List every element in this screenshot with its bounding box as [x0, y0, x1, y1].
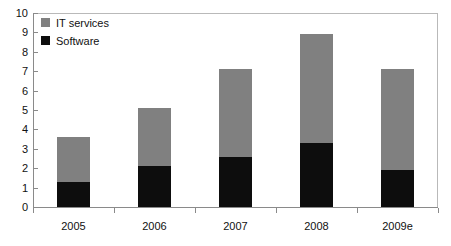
y-axis-tick-label: 0 — [0, 202, 28, 212]
y-axis-tick-mark — [33, 91, 38, 92]
bar-segment-software-2007[interactable] — [219, 157, 252, 207]
bar-segment-software-2008[interactable] — [300, 143, 333, 207]
bar-segment-it-services-2005[interactable] — [57, 137, 90, 182]
x-axis-tick-mark — [276, 208, 277, 213]
y-axis-tick-label: 5 — [0, 105, 28, 115]
y-axis-tick-label: 6 — [0, 86, 28, 96]
y-axis-tick-mark — [33, 52, 38, 53]
y-axis-tick-label: 2 — [0, 163, 28, 173]
legend-label-it-services: IT services — [56, 17, 109, 29]
bar-group-2008[interactable] — [300, 34, 333, 207]
x-axis-tick-label-2005: 2005 — [33, 220, 114, 232]
y-axis-tick-mark — [33, 110, 38, 111]
y-axis-tick-mark — [33, 188, 38, 189]
y-axis-tick-mark — [33, 71, 38, 72]
bar-segment-software-2005[interactable] — [57, 182, 90, 207]
bar-segment-it-services-2007[interactable] — [219, 69, 252, 156]
legend-label-software: Software — [56, 35, 99, 47]
bar-segment-software-2009e[interactable] — [381, 170, 414, 207]
x-axis-line — [33, 207, 438, 208]
legend-item-it-services: IT services — [41, 16, 109, 29]
stacked-bar-chart: 012345678910 20052006200720082009e IT se… — [0, 0, 451, 246]
bar-segment-it-services-2006[interactable] — [138, 108, 171, 166]
x-axis-tick-label-2008: 2008 — [276, 220, 357, 232]
y-axis-tick-label: 3 — [0, 144, 28, 154]
bar-segment-it-services-2009e[interactable] — [381, 69, 414, 170]
x-axis-tick-mark — [33, 208, 34, 213]
y-axis-tick-label: 7 — [0, 66, 28, 76]
y-axis-tick-label: 8 — [0, 47, 28, 57]
x-axis-tick-mark — [357, 208, 358, 213]
y-axis-tick-mark — [33, 13, 38, 14]
y-axis-tick-label: 10 — [0, 8, 28, 18]
x-axis-tick-mark — [438, 208, 439, 213]
bar-group-2006[interactable] — [138, 108, 171, 207]
x-axis-tick-mark — [195, 208, 196, 213]
chart-legend: IT services Software — [41, 16, 109, 47]
x-axis-tick-label-2009e: 2009e — [357, 220, 438, 232]
x-axis-tick-label-2007: 2007 — [195, 220, 276, 232]
x-axis-tick-mark — [114, 208, 115, 213]
y-axis-tick-mark — [33, 32, 38, 33]
y-axis-tick-mark — [33, 168, 38, 169]
bar-group-2007[interactable] — [219, 69, 252, 207]
y-axis-tick-label: 4 — [0, 124, 28, 134]
legend-item-software: Software — [41, 34, 109, 47]
y-axis-tick-label: 1 — [0, 183, 28, 193]
bar-segment-software-2006[interactable] — [138, 166, 171, 207]
y-axis-tick-mark — [33, 149, 38, 150]
bar-segment-it-services-2008[interactable] — [300, 34, 333, 143]
bar-group-2009e[interactable] — [381, 69, 414, 207]
x-axis-tick-label-2006: 2006 — [114, 220, 195, 232]
bar-group-2005[interactable] — [57, 137, 90, 207]
y-axis-tick-label: 9 — [0, 27, 28, 37]
legend-swatch-icon-software — [41, 36, 50, 45]
y-axis-tick-labels: 012345678910 — [0, 0, 28, 246]
y-axis-tick-mark — [33, 129, 38, 130]
legend-swatch-icon-it-services — [41, 18, 50, 27]
